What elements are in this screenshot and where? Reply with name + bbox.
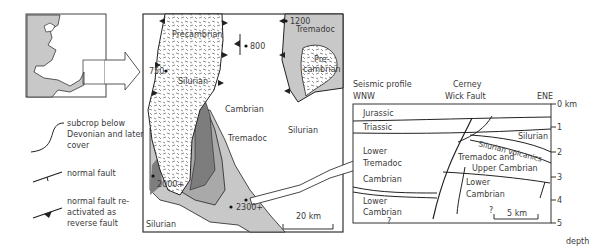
fault-label-1: Cerney [453,80,482,89]
subcrop-line-icon [31,123,64,152]
label-tremadoc: Tremadoc [227,134,267,143]
depth-tick-1: 1 [557,123,562,132]
label-silurian-east: Silurian [288,126,318,135]
label-silurian-sw: Silurian [146,220,176,229]
profile-title: Seismic profile [353,80,412,89]
well-2300: 2300+ [236,203,263,212]
unit-lower-cambrian-e1: Lower [466,178,491,187]
profile-east-label: ENE [537,92,553,101]
inset-arrow [105,52,140,90]
well-1200: 1200 [290,17,310,26]
depth-tick-4: 4 [557,196,562,205]
label-precambrian: Precambrian [172,30,222,39]
unit-lower-cambrian-e2: Cambrian [466,190,505,199]
legend-normal-fault-label: normal fault [67,168,147,179]
legend-symbols [31,123,64,218]
label-precambrian-east-2: cambrian [303,65,341,74]
unit-lower-cambrian-w1: Lower [363,197,388,206]
inset-map [26,14,140,97]
well-750: 750 [149,67,164,76]
map-scale-label: 20 km [296,212,321,221]
label-precambrian-east-1: Pre- [314,55,330,64]
unit-lower-tremadoc-1: Lower [363,147,388,156]
profile-west-label: WNW [353,92,375,101]
legend-reverse-fault-label: normal fault re-activated as reverse fau… [67,196,139,229]
depth-tick-2: 2 [557,148,562,157]
depth-tick-5: 5 [557,219,562,228]
depth-label: depth [566,237,589,246]
profile-scale-label: 5 km [507,209,527,218]
unit-silurian: Silurian [518,132,548,141]
unit-tremadoc-upper-2: Upper Cambrian [472,164,538,173]
unit-tremadoc-upper-1: Tremadoc and [457,153,514,162]
unit-triassic: Triassic [362,123,392,132]
unit-cambrian: Cambrian [363,175,402,184]
q-east: ? [489,206,493,215]
fault-label-2: Wick Fault [445,92,486,101]
label-silurian-inlier: Silurian [178,77,208,86]
unit-lower-cambrian-w2: Cambrian [363,208,402,217]
label-tremadoc-east: Tremadoc [295,25,335,34]
label-cambrian: Cambrian [225,105,264,114]
legend-subcrop-label: subcrop below Devonian and later cover [67,118,147,151]
well-2000: 2000+ [157,180,184,189]
unit-lower-tremadoc-2: Tremadoc [362,159,402,168]
well-800: 800 [250,42,265,51]
depth-tick-0: 0 km [557,100,577,109]
unit-jurassic: Jurassic [362,109,394,118]
depth-tick-3: 3 [557,173,562,182]
q-west: ? [387,217,391,226]
